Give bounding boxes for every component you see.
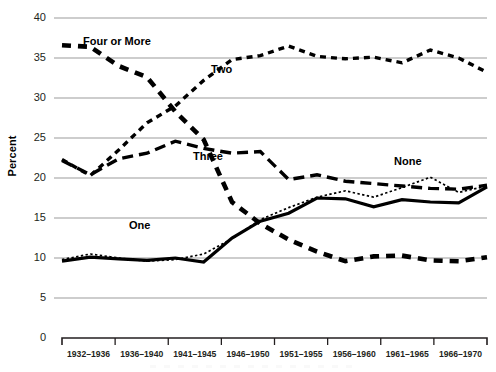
- footer-artifact: [150, 362, 360, 370]
- y-tick-label: 20: [18, 171, 46, 183]
- series-line-four-or-more: [62, 45, 487, 261]
- y-tick-label: 30: [18, 91, 46, 103]
- y-tick-label: 15: [18, 211, 46, 223]
- x-tick-label: 1966–1970: [426, 349, 494, 359]
- series-label-two: Two: [211, 63, 232, 75]
- y-tick-label: 35: [18, 51, 46, 63]
- y-tick-label: 0: [18, 331, 46, 343]
- series-line-one: [62, 187, 487, 262]
- series-label-one: One: [129, 219, 150, 231]
- series-label-three: Three: [193, 150, 223, 162]
- y-tick-label: 10: [18, 251, 46, 263]
- series-line-none: [62, 177, 487, 261]
- y-tick-label: 5: [18, 291, 46, 303]
- line-chart: Percent 0510152025303540 1932–19361936–1…: [0, 0, 496, 372]
- plot-area: [0, 0, 496, 372]
- y-tick-label: 40: [18, 11, 46, 23]
- series-line-three: [62, 141, 487, 189]
- series-label-none: None: [394, 155, 422, 167]
- series-label-four-or-more: Four or More: [83, 35, 151, 47]
- y-tick-label: 25: [18, 131, 46, 143]
